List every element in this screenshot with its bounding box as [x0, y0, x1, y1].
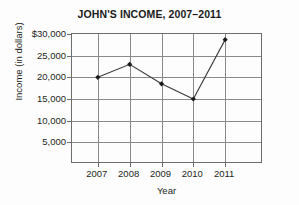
data-point-marker	[191, 96, 196, 101]
data-point-marker	[95, 75, 100, 80]
data-point-marker	[223, 37, 228, 42]
x-tick-label: 2011	[214, 168, 234, 179]
chart-figure: JOHN'S INCOME, 2007–2011 Income (in doll…	[0, 0, 299, 205]
data-series-layer	[72, 34, 263, 164]
x-tick-label: 2009	[150, 168, 171, 179]
data-point-marker	[127, 62, 132, 67]
x-axis-title: Year	[71, 185, 262, 196]
y-tick-label: 15,000	[37, 93, 66, 104]
data-point-marker	[159, 81, 164, 86]
plot-area	[71, 33, 262, 163]
y-tick-label: $30,000	[32, 28, 66, 39]
y-tick-label: 5,000	[42, 136, 66, 147]
x-tick-label: 2007	[86, 168, 107, 179]
y-tick-label: 10,000	[37, 114, 66, 125]
x-tick-label: 2008	[118, 168, 139, 179]
y-tick-label: 25,000	[37, 49, 66, 60]
chart-title: JOHN'S INCOME, 2007–2011	[0, 8, 299, 20]
y-tick-label: 20,000	[37, 71, 66, 82]
income-line	[98, 40, 225, 99]
income-markers	[95, 37, 228, 102]
y-axis-title: Income (in dollars)	[13, 0, 24, 127]
x-tick-label: 2010	[182, 168, 203, 179]
